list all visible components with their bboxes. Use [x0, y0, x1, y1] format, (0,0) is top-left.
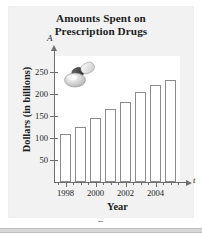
- x-tick-minor: [103, 182, 104, 185]
- bar-2004: [150, 85, 161, 182]
- x-tick-label-2002: 2002: [111, 188, 141, 198]
- x-axis-title: Year: [55, 201, 180, 212]
- pill-capsule-icon: [62, 60, 104, 90]
- x-axis-arrow: [186, 180, 192, 186]
- y-axis-title: Dollars (in billions): [21, 51, 32, 169]
- figure-container: Amounts Spent on Prescription Drugs: [0, 0, 202, 234]
- y-tick-150: [50, 116, 58, 117]
- x-tick-2000: [96, 182, 97, 187]
- x-tick-minor: [111, 182, 112, 185]
- x-tick-label-2004: 2004: [141, 188, 171, 198]
- y-tick-100: [50, 138, 58, 139]
- bar-1998: [60, 134, 71, 182]
- chart-title-line-2: Prescription Drugs: [8, 25, 194, 38]
- x-tick-minor: [73, 182, 74, 185]
- chart-title-line-1: Amounts Spent on: [56, 12, 146, 24]
- y-axis-variable-label: A: [47, 33, 53, 43]
- x-tick-minor: [178, 182, 179, 185]
- bar-2000: [90, 118, 101, 182]
- y-tick-250: [50, 72, 58, 73]
- x-tick-2002: [126, 182, 127, 187]
- y-tick-50: [50, 160, 58, 161]
- x-tick-minor: [163, 182, 164, 185]
- y-axis-arrow: [51, 45, 57, 51]
- x-tick-1998: [66, 182, 67, 187]
- x-tick-minor: [171, 182, 172, 185]
- x-tick-2004: [156, 182, 157, 187]
- chart-title: Amounts Spent on Prescription Drugs: [8, 12, 194, 38]
- bar-2003: [135, 92, 146, 182]
- x-tick-minor: [81, 182, 82, 185]
- x-tick-minor: [133, 182, 134, 185]
- bar-1999: [75, 127, 86, 182]
- x-tick-minor: [148, 182, 149, 185]
- x-tick-minor: [141, 182, 142, 185]
- x-axis-variable-label: t: [193, 175, 196, 185]
- x-tick-minor: [118, 182, 119, 185]
- x-tick-label-2000: 2000: [81, 188, 111, 198]
- y-tick-200: [50, 94, 58, 95]
- bar-2005: [165, 80, 176, 182]
- bar-2002: [120, 102, 131, 183]
- bar-2001: [105, 109, 116, 182]
- bottom-divider: [0, 228, 202, 233]
- x-tick-label-1998: 1998: [51, 188, 81, 198]
- x-tick-minor: [58, 182, 59, 185]
- x-tick-minor: [88, 182, 89, 185]
- page-mark: [98, 221, 103, 222]
